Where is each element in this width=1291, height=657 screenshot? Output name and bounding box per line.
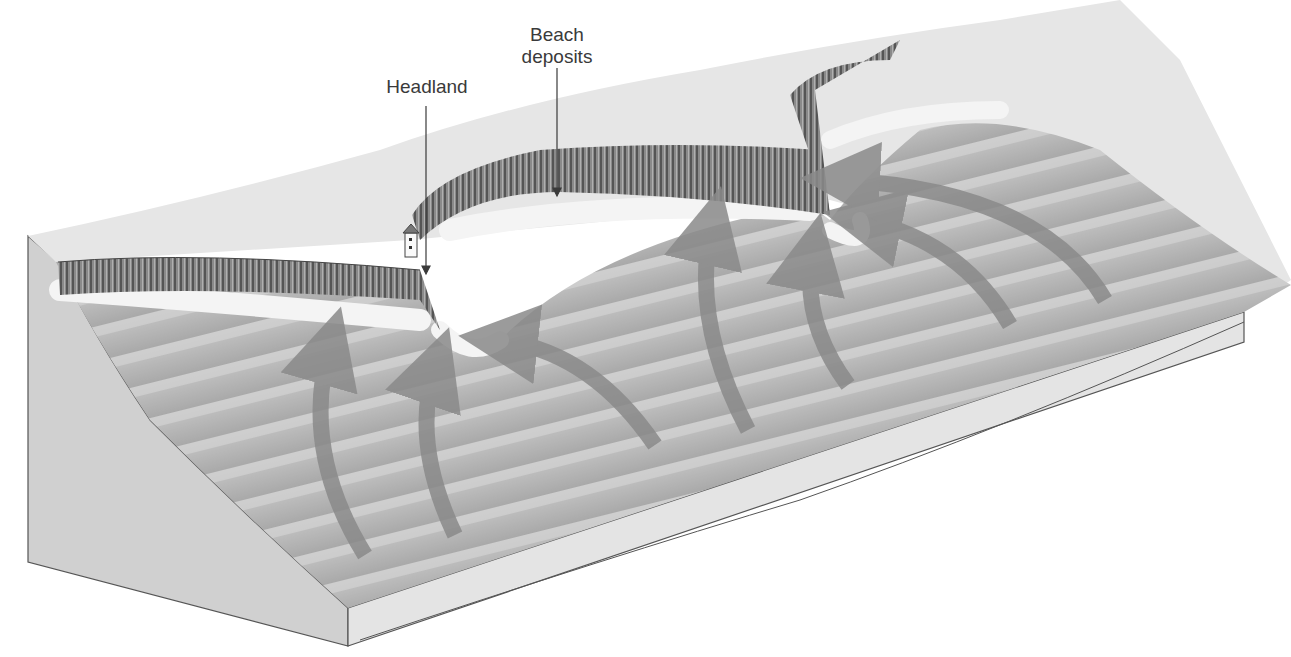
beach-deposits-label-line2: deposits [505, 46, 609, 68]
beach-deposits-label: Beach deposits [505, 24, 609, 68]
headland-label-text: Headland [386, 76, 467, 97]
beach-deposits-label-line1: Beach [505, 24, 609, 46]
coastline-block-diagram [0, 0, 1291, 657]
headland-label: Headland [372, 76, 482, 98]
